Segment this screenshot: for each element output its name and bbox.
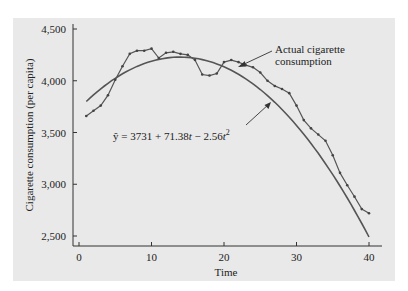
data-point: [331, 154, 334, 157]
data-point: [107, 94, 110, 97]
chart-canvas: 2,5003,0003,5004,0004,500 010203040 Ciga…: [0, 0, 408, 291]
x-axis-title: Time: [215, 266, 238, 278]
fitted-trend-curve: [86, 57, 369, 237]
data-point: [201, 73, 204, 76]
annotation-actual-line1: Actual cigarette: [275, 43, 345, 55]
y-axis-title: Cigarette consumption (per capita): [23, 58, 36, 211]
data-point: [150, 47, 153, 50]
y-axis-ticks: 2,5003,0003,5004,0004,500: [41, 23, 77, 242]
annotation-actual-arrow: [238, 51, 272, 67]
y-tick-label: 4,000: [41, 75, 66, 87]
data-point: [259, 71, 262, 74]
data-point: [121, 65, 124, 68]
y-tick-label: 2,500: [41, 230, 66, 242]
y-tick-label: 3,500: [41, 127, 66, 139]
annotation-fit-arrow: [246, 102, 271, 125]
data-point: [186, 54, 189, 57]
y-tick-label: 3,000: [41, 178, 66, 190]
data-point: [114, 78, 117, 81]
data-point: [317, 133, 320, 136]
x-tick-label: 20: [219, 251, 231, 263]
data-point: [208, 74, 211, 77]
data-point: [346, 184, 349, 187]
data-point: [157, 57, 160, 60]
x-tick-label: 30: [291, 251, 303, 263]
data-point: [136, 49, 139, 52]
x-tick-label: 0: [76, 251, 82, 263]
data-point: [99, 104, 102, 107]
data-point: [165, 52, 168, 55]
data-point: [237, 61, 240, 64]
annotation-actual-line2: consumption: [275, 55, 332, 67]
data-point: [339, 172, 342, 175]
y-tick-label: 4,500: [41, 23, 66, 35]
data-point: [194, 59, 197, 62]
data-point: [288, 92, 291, 95]
x-axis-ticks: 010203040: [76, 242, 375, 263]
data-point: [266, 79, 269, 82]
data-point: [223, 61, 226, 64]
data-point: [360, 208, 363, 211]
x-tick-label: 40: [364, 251, 376, 263]
data-point: [324, 139, 327, 142]
data-point: [368, 212, 371, 215]
data-point: [172, 50, 175, 53]
data-point: [353, 195, 356, 198]
data-point: [252, 66, 255, 69]
x-tick-label: 10: [146, 251, 158, 263]
equation-label: ŷ = 3731 + 71.38t − 2.56t2: [113, 128, 230, 142]
data-point: [310, 127, 313, 130]
data-point: [128, 53, 131, 56]
data-point: [295, 104, 298, 107]
data-point: [281, 88, 284, 91]
data-point: [92, 109, 95, 112]
data-point: [230, 59, 233, 62]
data-point: [143, 49, 146, 52]
data-point: [302, 119, 305, 122]
data-point: [179, 53, 182, 56]
data-point: [215, 72, 218, 75]
data-point: [85, 115, 88, 118]
data-point: [273, 85, 276, 88]
